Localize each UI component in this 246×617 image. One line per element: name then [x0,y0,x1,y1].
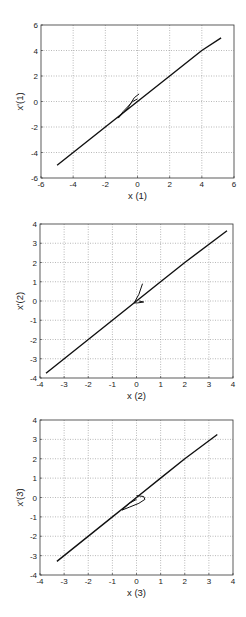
x-tick-label: 4 [200,180,205,189]
y-tick-label: 1 [33,474,38,483]
y-tick-label: 3 [33,239,38,248]
y-tick-label: -6 [31,174,39,183]
y-tick-label: -1 [30,513,38,522]
x-tick-label: -6 [37,180,45,189]
y-axis-label: x'(2) [14,292,25,310]
y-tick-label: -1 [30,316,38,325]
x-tick-label: 1 [158,380,163,389]
y-tick-label: -4 [31,149,39,158]
x-tick-label: 3 [207,577,212,586]
phase-plot-2: -4-3-2-101234-4-3-2-101234x (2)x'(2) [14,220,236,401]
y-tick-label: 0 [33,494,38,503]
y-tick-label: 2 [34,72,39,81]
x-tick-label: 2 [183,380,188,389]
phase-plot-3: -4-3-2-101234-4-3-2-101234x (3)x'(3) [14,416,236,598]
x-axis-label: x (2) [127,390,146,401]
y-tick-label: 1 [33,278,38,287]
x-tick-label: -3 [61,577,69,586]
series-trajectory [57,435,217,562]
y-tick-label: -4 [30,374,38,383]
x-tick-label: -2 [85,380,93,389]
x-tick-label: -1 [109,380,117,389]
y-tick-label: -2 [30,336,38,345]
y-tick-label: 2 [33,259,38,268]
x-tick-label: 2 [183,577,188,586]
phase-plot-1: -6-4-20246-6-4-20246x (1)x'(1) [14,21,237,201]
y-tick-label: 0 [33,297,38,306]
figure-canvas: -6-4-20246-6-4-20246x (1)x'(1) -4-3-2-10… [0,0,246,617]
x-tick-label: 0 [135,180,140,189]
y-tick-label: 2 [33,455,38,464]
y-tick-label: -3 [30,355,38,364]
y-axis-label: x'(3) [14,488,25,506]
y-axis-label: x'(1) [14,92,25,110]
x-tick-label: -3 [61,380,69,389]
y-tick-label: 3 [33,435,38,444]
y-tick-label: -4 [30,571,38,580]
x-tick-label: 4 [231,577,236,586]
y-tick-label: 4 [33,220,38,229]
x-tick-label: -2 [102,180,110,189]
x-tick-label: 2 [167,180,172,189]
x-tick-label: 3 [207,380,212,389]
x-tick-label: 0 [134,380,139,389]
x-tick-label: -2 [85,577,93,586]
x-axis-label: x (3) [127,587,146,598]
x-tick-label: 0 [134,577,139,586]
y-tick-label: 4 [33,416,38,425]
series-transient [134,284,144,303]
x-axis-label: x (1) [128,190,147,201]
x-tick-label: -1 [109,577,117,586]
x-tick-label: -4 [70,180,78,189]
y-tick-label: -2 [31,123,39,132]
x-tick-label: -4 [36,380,44,389]
y-tick-label: 0 [34,98,39,107]
y-tick-label: 4 [34,47,39,56]
y-tick-label: -3 [30,552,38,561]
y-tick-label: 6 [34,21,39,30]
series-transient [118,94,139,118]
x-tick-label: -4 [36,577,44,586]
x-tick-label: 4 [231,380,236,389]
x-tick-label: 6 [232,180,237,189]
x-tick-label: 1 [158,577,163,586]
y-tick-label: -2 [30,532,38,541]
